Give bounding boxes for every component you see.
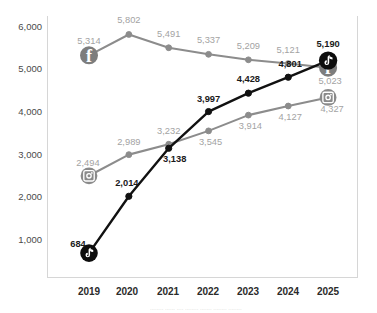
data-label: 3,138 bbox=[163, 154, 186, 164]
tiktok-icon bbox=[319, 51, 337, 69]
y-axis-tick-labels: 6,000 5,000 4,000 3,000 2,000 1,000 bbox=[18, 21, 42, 246]
data-point bbox=[246, 57, 252, 63]
data-label: 5,314 bbox=[77, 36, 100, 46]
cropped-footnote: ........ ...... .... ........ ....... ..… bbox=[150, 305, 375, 311]
x-tick-label: 2022 bbox=[197, 286, 220, 297]
data-label: 3,914 bbox=[239, 121, 262, 131]
chart-canvas: 6,000 5,000 4,000 3,000 2,000 1,000 2019… bbox=[0, 0, 377, 313]
line-chart: 6,000 5,000 4,000 3,000 2,000 1,000 2019… bbox=[0, 0, 377, 313]
data-point bbox=[126, 193, 132, 199]
data-point bbox=[126, 32, 132, 38]
data-point bbox=[245, 90, 251, 96]
data-point bbox=[285, 74, 291, 80]
data-point bbox=[206, 128, 212, 134]
data-label: 5,190 bbox=[316, 39, 339, 49]
data-label: 5,491 bbox=[157, 29, 180, 39]
x-tick-label: 2025 bbox=[317, 286, 340, 297]
x-axis-tick-labels: 2019 2020 2021 2022 2023 2024 2025 bbox=[78, 286, 340, 297]
data-point bbox=[166, 145, 172, 151]
data-point bbox=[166, 45, 172, 51]
y-tick-label: 5,000 bbox=[18, 63, 42, 74]
data-labels-facebook: 5,3145,8025,4915,3375,2095,1215,023 bbox=[77, 15, 341, 85]
data-label: 3,545 bbox=[199, 137, 222, 147]
data-label: 4,127 bbox=[279, 112, 302, 122]
y-tick-label: 4,000 bbox=[18, 106, 42, 117]
data-label: 2,989 bbox=[117, 137, 140, 147]
svg-text:f: f bbox=[86, 46, 93, 66]
data-label: 684 bbox=[70, 239, 86, 249]
x-tick-label: 2021 bbox=[157, 286, 180, 297]
data-label: 5,802 bbox=[117, 15, 140, 25]
data-label: 4,327 bbox=[320, 104, 343, 114]
data-label: 2,494 bbox=[76, 158, 99, 168]
y-tick-label: 1,000 bbox=[18, 234, 42, 245]
y-tick-label: 3,000 bbox=[18, 149, 42, 160]
x-tick-label: 2023 bbox=[237, 286, 260, 297]
data-point bbox=[285, 103, 291, 109]
data-label: 3,232 bbox=[157, 126, 180, 136]
x-tick-label: 2024 bbox=[277, 286, 300, 297]
x-tick-label: 2019 bbox=[78, 286, 101, 297]
data-point bbox=[126, 152, 132, 158]
data-label: 4,428 bbox=[237, 74, 260, 84]
data-label: 2,014 bbox=[115, 178, 139, 188]
series-endpoint-icons: ff bbox=[80, 46, 337, 262]
data-label: 3,997 bbox=[197, 94, 220, 104]
instagram-icon bbox=[320, 89, 337, 106]
data-label: 5,121 bbox=[277, 45, 300, 55]
data-point bbox=[246, 112, 252, 118]
y-tick-label: 2,000 bbox=[18, 191, 42, 202]
x-tick-label: 2020 bbox=[116, 286, 139, 297]
data-label: 5,209 bbox=[237, 41, 260, 51]
data-point bbox=[206, 51, 212, 57]
data-point bbox=[205, 108, 211, 114]
y-tick-label: 6,000 bbox=[18, 21, 42, 32]
data-label: 4,801 bbox=[279, 59, 302, 69]
facebook-icon: f bbox=[80, 46, 98, 66]
data-label: 5,023 bbox=[318, 76, 341, 86]
instagram-icon bbox=[81, 167, 98, 184]
data-label: 5,337 bbox=[197, 35, 220, 45]
